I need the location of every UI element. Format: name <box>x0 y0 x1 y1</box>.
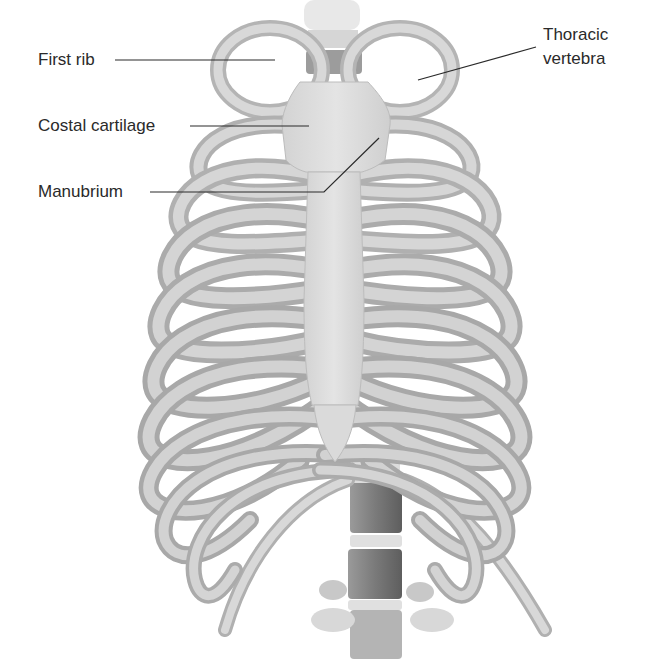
label-thoracic-vertebra-line2: vertebra <box>543 48 605 70</box>
thoracic-vertebra-leader <box>418 47 536 80</box>
rib-cage-illustration <box>0 0 658 659</box>
label-costal-cartilage: Costal cartilage <box>38 116 155 136</box>
sternum-body <box>304 172 364 405</box>
manubrium <box>282 82 390 172</box>
label-thoracic-vertebra-line1: Thoracic <box>543 24 608 46</box>
label-manubrium: Manubrium <box>38 182 123 202</box>
label-first-rib: First rib <box>38 50 95 70</box>
